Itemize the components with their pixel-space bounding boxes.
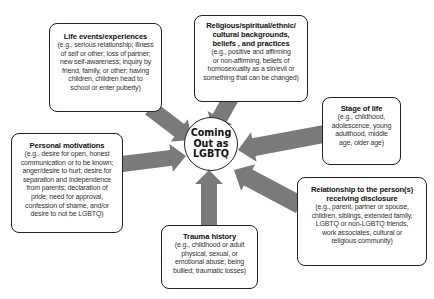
arrow-relationship xyxy=(234,164,304,213)
factor-desc-line: religious community) xyxy=(301,237,423,246)
factor-desc-line: new self-awareness; inquiry by xyxy=(53,58,158,67)
factor-desc-line: children, siblings, extended family, xyxy=(301,212,423,221)
factor-desc-line: physical, sexual, or xyxy=(165,250,254,259)
factor-desc-line: (e.g., desire for open, honest xyxy=(15,150,119,159)
factor-box-life-events: Life events/experiences (e.g., serious r… xyxy=(49,23,162,112)
factor-desc-line: (e.g., serious relationship; illness xyxy=(53,41,158,50)
factor-desc-line: anger/desire to hurt; desire for xyxy=(15,167,119,176)
factor-title-line: receiving disclosure xyxy=(301,194,423,203)
factor-desc-line: adolescence, young xyxy=(326,122,397,131)
factor-desc-line: (e.g., childhood or adult xyxy=(165,241,254,250)
factor-title-line: Religious/spiritual/ethnic/ xyxy=(198,21,304,30)
factor-desc-line: bullied; traumatic losses) xyxy=(165,267,254,276)
factor-desc-line: something that can be changed) xyxy=(198,74,304,83)
factor-desc-line: pride; need for approval, xyxy=(15,193,119,202)
factor-desc-line: of self or other; loss of partner; xyxy=(53,50,158,59)
factor-desc-line: age, older age) xyxy=(326,139,397,148)
factor-box-trauma-history: Trauma history (e.g., childhood or adult… xyxy=(161,225,258,289)
factor-title: Trauma history xyxy=(165,232,254,241)
center-label-line: Out as xyxy=(193,138,228,149)
factor-desc-line: (e.g., positive and affirming xyxy=(198,48,304,57)
factor-desc-line: LGBTQ or non-LGBTQ friends, xyxy=(301,220,423,229)
factor-desc-line: communication or to be known; xyxy=(15,159,119,168)
factor-desc-line: adulthood, middle xyxy=(326,130,397,139)
arrow-stage-of-life xyxy=(238,125,326,162)
factor-desc-line: school or enter puberty) xyxy=(53,84,158,93)
factor-box-personal-motivations: Personal motivations (e.g., desire for o… xyxy=(11,133,123,233)
factor-title: Personal motivations xyxy=(15,141,119,150)
factor-desc-line: homosexuality as a sin/evil or xyxy=(198,65,304,74)
center-label: Coming Out as LGBTQ xyxy=(191,128,232,160)
arrow-personal-motivations xyxy=(121,144,186,172)
factor-title-line: cultural backgrounds, xyxy=(198,30,304,39)
factor-desc-line: emotional abuse; being xyxy=(165,258,254,267)
factor-title-line: beliefs , and practices xyxy=(198,39,304,48)
center-label-line: Coming xyxy=(191,127,232,138)
factor-desc-line: desire to not be LGBTQ) xyxy=(15,210,119,219)
factor-title-line: Relationship to the person(s) xyxy=(301,185,423,194)
factor-box-relationship: Relationship to the person(s) receiving … xyxy=(297,177,427,266)
factor-desc-line: or non-affirming, beliefs of xyxy=(198,57,304,66)
factor-box-religious: Religious/spiritual/ethnic/ cultural bac… xyxy=(194,15,308,102)
arrow-trauma-history xyxy=(195,170,223,226)
factor-desc-line: from parents; declaration of xyxy=(15,184,119,193)
factor-desc-line: (e.g., childhood, xyxy=(326,113,397,122)
factor-desc-line: separation and independence xyxy=(15,176,119,185)
factor-desc-line: confession of shame, and/or xyxy=(15,202,119,211)
factor-title: Life events/experiences xyxy=(53,32,158,41)
factor-desc-line: (e.g., parent, partner or spouse, xyxy=(301,203,423,212)
center-label-line: LGBTQ xyxy=(193,148,229,159)
factor-desc-line: children, children head to xyxy=(53,75,158,84)
factor-desc-line: work associates, cultural or xyxy=(301,229,423,238)
factor-box-stage-of-life: Stage of life (e.g., childhood, adolesce… xyxy=(322,97,401,165)
factor-desc-line: friend, family, or other; having xyxy=(53,67,158,76)
center-circle: Coming Out as LGBTQ xyxy=(184,117,238,171)
factor-title: Stage of life xyxy=(326,104,397,113)
